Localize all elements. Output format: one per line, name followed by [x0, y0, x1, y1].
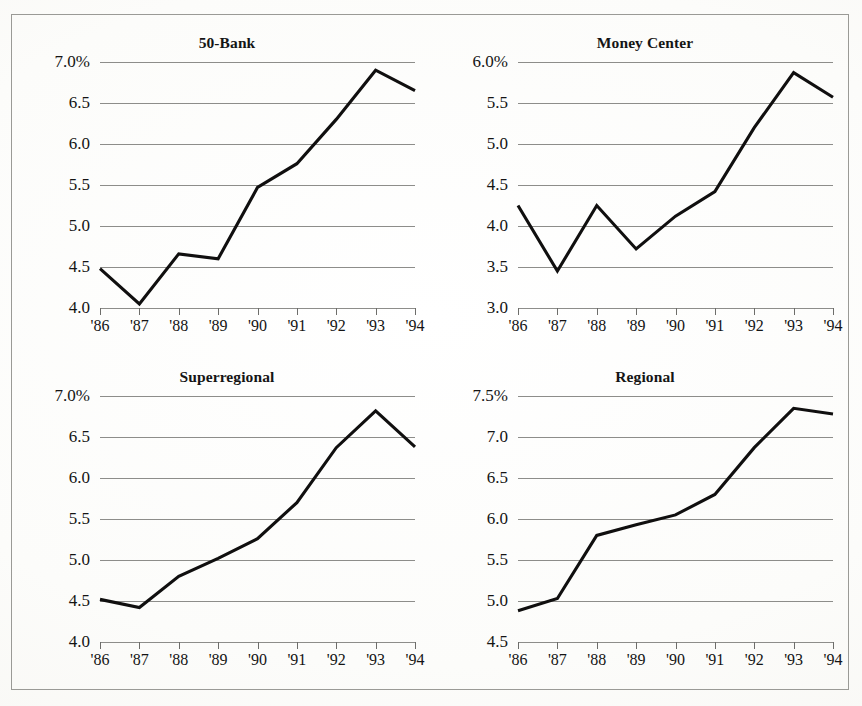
x-axis-tick [218, 642, 219, 649]
x-axis-tick [297, 308, 298, 315]
y-axis-tick-label: 5.0 [24, 551, 90, 568]
x-axis-tick [833, 308, 834, 315]
x-axis-tick [636, 308, 637, 315]
y-axis-tick-label: 5.0 [24, 217, 90, 234]
x-axis-tick [754, 642, 755, 649]
x-axis-tick-label: '94 [808, 318, 858, 334]
y-axis-tick-label: 4.0 [24, 299, 90, 316]
series-line [518, 396, 833, 642]
x-axis-tick [376, 308, 377, 315]
x-axis-tick [297, 642, 298, 649]
y-axis-tick-label: 6.0 [24, 469, 90, 486]
y-axis-tick-label: 3.0 [442, 299, 508, 316]
x-axis-tick [100, 308, 101, 315]
y-axis-tick-label: 5.0 [442, 592, 508, 609]
x-axis-tick [218, 308, 219, 315]
chart-title: Money Center [440, 34, 850, 52]
y-axis-tick-label: 4.5 [442, 176, 508, 193]
y-axis-tick-label: 6.0 [442, 510, 508, 527]
x-axis-tick [518, 642, 519, 649]
x-axis-tick [376, 642, 377, 649]
x-axis-tick [676, 642, 677, 649]
y-axis-tick-label: 7.0% [24, 53, 90, 70]
y-axis-tick-label: 4.5 [442, 633, 508, 650]
y-axis-tick-label: 4.0 [442, 217, 508, 234]
figure-page: 50-Bank4.04.55.05.56.06.57.0%'86'87'88'8… [0, 0, 862, 706]
x-axis-tick [833, 642, 834, 649]
x-axis-tick [258, 642, 259, 649]
series-line [100, 396, 415, 642]
chart-title: Superregional [22, 368, 432, 386]
plot-area: 4.04.55.05.56.06.57.0%'86'87'88'89'90'91… [100, 396, 415, 642]
y-axis-tick-label: 6.5 [24, 94, 90, 111]
x-axis-tick [179, 642, 180, 649]
series-path [518, 73, 833, 271]
x-axis-tick [518, 308, 519, 315]
y-axis-tick-label: 7.0 [442, 428, 508, 445]
chart-panel-2: Money Center3.03.54.04.55.05.56.0%'86'87… [440, 34, 850, 339]
x-axis-tick [754, 308, 755, 315]
y-axis-tick-label: 6.5 [24, 428, 90, 445]
y-axis-tick-label: 5.5 [24, 176, 90, 193]
x-axis-tick [597, 308, 598, 315]
x-axis-tick [794, 642, 795, 649]
x-axis-tick [258, 308, 259, 315]
y-axis-tick-label: 6.5 [442, 469, 508, 486]
y-axis-tick-label: 5.5 [442, 94, 508, 111]
x-axis-tick [597, 642, 598, 649]
series-line [518, 62, 833, 308]
series-line [100, 62, 415, 308]
series-path [100, 411, 415, 608]
x-axis-tick [139, 642, 140, 649]
x-axis-tick [100, 642, 101, 649]
chart-panel-1: 50-Bank4.04.55.05.56.06.57.0%'86'87'88'8… [22, 34, 432, 339]
x-axis-tick [415, 642, 416, 649]
chart-panel-3: Superregional4.04.55.05.56.06.57.0%'86'8… [22, 368, 432, 673]
chart-panel-4: Regional4.55.05.56.06.57.07.5%'86'87'88'… [440, 368, 850, 673]
y-axis-tick-label: 5.5 [24, 510, 90, 527]
x-axis-tick [415, 308, 416, 315]
x-axis-tick [139, 308, 140, 315]
y-axis-tick-label: 5.0 [442, 135, 508, 152]
x-axis-tick [336, 308, 337, 315]
plot-area: 4.55.05.56.06.57.07.5%'86'87'88'89'90'91… [518, 396, 833, 642]
y-axis-tick-label: 4.0 [24, 633, 90, 650]
x-axis-tick [715, 308, 716, 315]
x-axis-tick [794, 308, 795, 315]
y-axis-tick-label: 3.5 [442, 258, 508, 275]
series-path [100, 70, 415, 304]
chart-title: 50-Bank [22, 34, 432, 52]
x-axis-tick [557, 642, 558, 649]
y-axis-tick-label: 6.0% [442, 53, 508, 70]
y-axis-tick-label: 4.5 [24, 592, 90, 609]
x-axis-tick [557, 308, 558, 315]
y-axis-tick-label: 7.0% [24, 387, 90, 404]
x-axis-tick [636, 642, 637, 649]
y-axis-tick-label: 4.5 [24, 258, 90, 275]
chart-title: Regional [440, 368, 850, 386]
y-axis-tick-label: 7.5% [442, 387, 508, 404]
x-axis-tick-label: '94 [808, 652, 858, 668]
x-axis-tick [715, 642, 716, 649]
plot-area: 4.04.55.05.56.06.57.0%'86'87'88'89'90'91… [100, 62, 415, 308]
x-axis-tick [179, 308, 180, 315]
y-axis-tick-label: 5.5 [442, 551, 508, 568]
y-axis-tick-label: 6.0 [24, 135, 90, 152]
plot-area: 3.03.54.04.55.05.56.0%'86'87'88'89'90'91… [518, 62, 833, 308]
series-path [518, 408, 833, 611]
x-axis-tick-label: '94 [390, 652, 440, 668]
x-axis-tick [676, 308, 677, 315]
x-axis-tick-label: '94 [390, 318, 440, 334]
x-axis-tick [336, 642, 337, 649]
